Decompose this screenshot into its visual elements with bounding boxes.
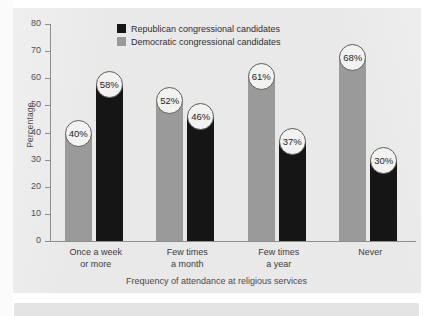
x-axis-line <box>50 241 416 242</box>
legend-swatch-democratic-icon <box>117 37 126 46</box>
y-axis-tick-label: 20 <box>31 181 41 191</box>
data-label-democratic-1: 40% <box>65 120 92 147</box>
x-axis-label-line: Few times <box>233 247 325 259</box>
x-axis-label-line: a year <box>233 259 325 271</box>
data-label-democratic-2: 52% <box>156 87 183 114</box>
bar-republican-1 <box>96 84 123 241</box>
chart-legend: Republican congressional candidates Demo… <box>117 22 281 48</box>
bar-republican-2 <box>187 116 214 241</box>
x-axis-label-line: Once a week <box>50 247 142 259</box>
data-label-republican-4: 30% <box>370 147 397 174</box>
y-axis-tick-label: 50 <box>31 99 41 109</box>
y-axis-tick-label: 30 <box>31 154 41 164</box>
y-axis-tick-label: 40 <box>31 127 41 137</box>
legend-label-republican: Republican congressional candidates <box>131 24 280 34</box>
x-axis-label-line: Never <box>325 247 417 259</box>
data-label-republican-1: 58% <box>96 71 123 98</box>
x-axis-label-line: or more <box>50 259 142 271</box>
y-axis-tick-label: 0 <box>36 235 41 245</box>
bar-democratic-4 <box>339 57 366 241</box>
legend-label-democratic: Democratic congressional candidates <box>131 37 281 47</box>
y-axis-tick-label: 60 <box>31 72 41 82</box>
data-label-republican-3: 37% <box>279 128 306 155</box>
x-axis-label-1: Once a weekor more <box>50 247 142 270</box>
x-axis-label-4: Never <box>325 247 417 259</box>
x-axis-title: Frequency of attendance at religious ser… <box>12 276 421 286</box>
bar-republican-3 <box>279 141 306 241</box>
y-axis-tick: 0 <box>45 241 51 242</box>
bar-democratic-2 <box>156 100 183 241</box>
data-label-democratic-4: 68% <box>339 44 366 71</box>
x-axis-label-3: Few timesa year <box>233 247 325 270</box>
x-axis-label-line: a month <box>142 259 234 271</box>
x-axis-label-line: Few times <box>142 247 234 259</box>
y-axis-tick-label: 80 <box>31 18 41 28</box>
page-bottom-strip <box>14 303 419 316</box>
legend-item-republican: Republican congressional candidates <box>117 22 281 35</box>
data-label-democratic-3: 61% <box>248 63 275 90</box>
x-axis-label-2: Few timesa month <box>142 247 234 270</box>
y-axis-tick-label: 70 <box>31 45 41 55</box>
bar-democratic-3 <box>248 76 275 241</box>
legend-swatch-republican-icon <box>117 24 126 33</box>
bar-chart: Percentage 01020304050607080 40%58%52%46… <box>12 8 421 293</box>
y-axis-tick-label: 10 <box>31 208 41 218</box>
bar-democratic-1 <box>65 133 92 242</box>
legend-item-democratic: Democratic congressional candidates <box>117 35 281 48</box>
